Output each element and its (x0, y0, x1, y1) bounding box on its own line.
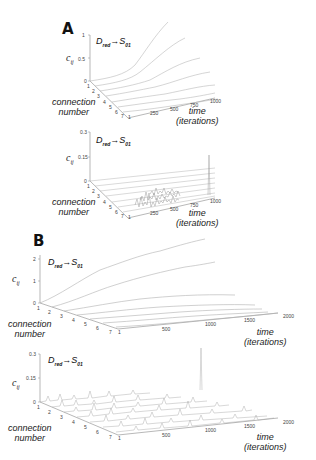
conn-tick: 6 (115, 109, 118, 115)
conn-tick: 4 (103, 99, 106, 105)
plot-a-bottom: 0.3 0.15 0 cij Dred→S01 1 2 3 4 5 6 7 co… (0, 120, 316, 230)
z-axis-label: cij (66, 52, 74, 65)
connection-axis-label: connectionnumber (8, 319, 52, 339)
z-tick: 0.15 (78, 154, 88, 160)
conn-tick: 5 (109, 104, 112, 110)
plot-a-top: 1 0.5 0 cij Dred→S01 1 2 3 4 5 6 7 conne… (0, 0, 316, 120)
conn-tick: 7 (121, 213, 124, 219)
plot-b-top: 2 1 0 cij Dred→S01 1 2 3 4 5 6 7 connect… (0, 225, 316, 345)
conn-tick: 6 (96, 325, 99, 331)
conn-tick: 3 (60, 313, 63, 319)
z-tick: 2 (33, 256, 36, 262)
series-annotation: Dred→S01 (96, 36, 131, 48)
conn-tick: 5 (84, 424, 87, 430)
conn-tick: 6 (115, 209, 118, 215)
conn-tick: 3 (97, 93, 100, 99)
z-tick: 0.15 (26, 375, 36, 381)
series-annotation: Dred→S01 (96, 135, 131, 147)
time-tick: 1500 (244, 317, 255, 323)
time-tick: 1000 (210, 98, 221, 104)
conn-tick: 7 (109, 329, 112, 335)
z-tick: 0.3 (80, 129, 87, 135)
z-tick: 1 (82, 32, 85, 38)
time-tick: 1 (128, 214, 131, 220)
time-tick: 500 (162, 326, 170, 332)
time-tick: 1 (118, 329, 121, 335)
series-annotation: Dred→S01 (48, 355, 83, 367)
series-annotation: Dred→S01 (48, 257, 83, 269)
z-tick: 0.5 (78, 56, 85, 62)
time-tick: 250 (150, 210, 158, 216)
z-axis-label: cij (12, 273, 20, 286)
time-tick: 1500 (244, 423, 255, 429)
conn-tick: 3 (97, 193, 100, 199)
conn-tick: 6 (96, 429, 99, 435)
conn-tick: 2 (48, 409, 51, 415)
time-tick: 1 (118, 435, 121, 441)
z-tick: 0 (33, 399, 36, 405)
conn-tick: 4 (72, 419, 75, 425)
conn-tick: 1 (87, 183, 90, 189)
conn-tick: 7 (109, 434, 112, 440)
plot-b-bottom: 0.3 0.15 0 cij Dred→S01 1 2 3 4 5 6 7 co… (0, 340, 316, 460)
plot-a-top-canvas (0, 0, 316, 120)
conn-tick: 2 (48, 309, 51, 315)
conn-tick: 2 (92, 88, 95, 94)
conn-tick: 4 (72, 317, 75, 323)
connection-axis-label: connectionnumber (52, 197, 96, 217)
time-tick: 2000 (283, 313, 294, 319)
conn-tick: 1 (37, 305, 40, 311)
z-tick: 1 (33, 278, 36, 284)
z-tick: 0 (33, 300, 36, 306)
z-axis-label: cij (12, 377, 20, 390)
time-tick: 2000 (283, 419, 294, 425)
conn-tick: 1 (87, 83, 90, 89)
z-axis-label: cij (66, 152, 74, 165)
conn-tick: 7 (121, 113, 124, 119)
time-tick: 1000 (205, 321, 216, 327)
time-tick: 250 (150, 110, 158, 116)
connection-axis-label: connectionnumber (8, 423, 52, 443)
time-tick: 1000 (205, 427, 216, 433)
conn-tick: 5 (84, 321, 87, 327)
connection-axis-label: connectionnumber (52, 97, 96, 117)
conn-tick: 1 (37, 404, 40, 410)
time-tick: 1000 (210, 198, 221, 204)
conn-tick: 2 (92, 188, 95, 194)
z-tick: 0.3 (29, 351, 36, 357)
time-axis-label: time(iterations) (244, 432, 287, 452)
conn-tick: 3 (60, 414, 63, 420)
conn-tick: 4 (103, 199, 106, 205)
conn-tick: 5 (109, 204, 112, 210)
time-tick: 500 (162, 432, 170, 438)
